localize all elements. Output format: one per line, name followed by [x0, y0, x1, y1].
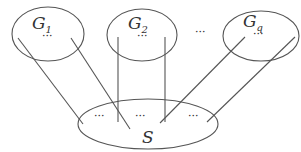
edge-gq-s-1	[160, 37, 245, 123]
separator-s-label: S	[142, 127, 154, 147]
diagram-svg: G1 ··· G2 ··· ··· Gq ··· ··· ··· ··· S	[0, 0, 301, 152]
group-g2-dots: ···	[137, 30, 148, 43]
between-groups-dots: ···	[195, 26, 206, 39]
edge-g1-s-1	[18, 38, 83, 124]
group-gq-dots: ···	[253, 28, 264, 41]
separator-dots-1: ···	[94, 110, 105, 123]
diagram-canvas: G1 ··· G2 ··· ··· Gq ··· ··· ··· ··· S	[0, 0, 301, 152]
separator-dots-2: ···	[135, 110, 146, 123]
edge-gq-s-2	[207, 37, 295, 122]
separator-dots-3: ···	[188, 110, 199, 123]
group-g1-dots: ···	[42, 30, 53, 43]
